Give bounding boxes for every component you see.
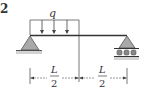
load-label: q — [49, 7, 56, 20]
beam-diagram: 2 q — [0, 0, 147, 99]
right-span-dimension: L 2 — [98, 64, 107, 89]
dimension-lines — [30, 68, 127, 84]
pin-support-icon — [16, 36, 42, 54]
left-span-denominator: 2 — [51, 78, 57, 89]
load-arrow-icon — [52, 30, 56, 34]
load-arrow-icon — [65, 30, 69, 34]
load-arrow-icon — [40, 30, 44, 34]
left-span-numerator: L — [50, 64, 58, 75]
roller-support-icon — [114, 36, 139, 60]
right-span-denominator: 2 — [99, 78, 105, 89]
left-span-dimension: L 2 — [50, 64, 59, 89]
problem-number: 2 — [0, 2, 8, 16]
right-span-numerator: L — [98, 64, 106, 75]
distributed-load — [30, 20, 79, 35]
